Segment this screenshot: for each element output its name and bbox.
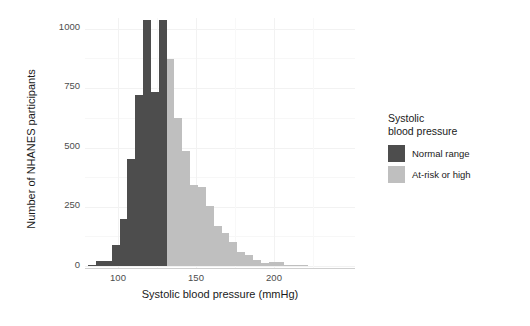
histogram-bar: [277, 262, 285, 266]
y-tick-label-1000: 1000: [36, 22, 80, 32]
histogram-bar: [96, 261, 104, 266]
histogram-bar: [253, 260, 261, 266]
legend-swatch-normal-range: [388, 145, 405, 162]
histogram-bar: [245, 255, 253, 266]
legend: Systolic blood pressure Normal range At-…: [388, 112, 520, 186]
histogram-bar: [135, 95, 143, 266]
histogram-bar: [174, 118, 182, 266]
legend-label-at-risk-or-high: At-risk or high: [412, 169, 471, 180]
legend-label-normal-range: Normal range: [412, 148, 470, 159]
histogram-bar: [167, 59, 175, 266]
plot-area: [85, 18, 355, 268]
histogram-bar: [127, 159, 135, 266]
histogram-bar: [214, 226, 222, 266]
legend-item-normal-range[interactable]: Normal range: [388, 144, 520, 163]
x-axis-line: [85, 268, 355, 269]
histogram-bar: [159, 20, 167, 266]
x-tick-label-200: 200: [254, 272, 294, 283]
histogram-bar: [198, 187, 206, 266]
x-axis-title: Systolic blood pressure (mmHg): [85, 288, 355, 300]
histogram-bar: [190, 185, 198, 266]
histogram-bar: [284, 265, 292, 266]
legend-title-line-2: blood pressure: [388, 125, 520, 138]
y-tick-label-250: 250: [36, 200, 80, 210]
legend-title-line-1: Systolic: [388, 112, 520, 125]
legend-title: Systolic blood pressure: [388, 112, 520, 137]
y-axis-title: Number of NHANES participants: [25, 34, 37, 264]
histogram-bar: [261, 263, 269, 266]
histogram-bar: [120, 219, 128, 266]
histogram-chart: 1000 750 500 250 0 Number of NHANES part…: [0, 0, 530, 326]
histogram-bar: [222, 233, 230, 266]
y-tick-label-500: 500: [36, 141, 80, 151]
histogram-bar: [182, 151, 190, 266]
histogram-bar: [88, 265, 96, 266]
histogram-bar: [269, 262, 277, 266]
histogram-bars: [85, 18, 355, 268]
histogram-bar: [237, 252, 245, 266]
x-tick-label-150: 150: [176, 272, 216, 283]
histogram-bar: [112, 245, 120, 266]
histogram-bar: [151, 92, 159, 266]
histogram-bar: [104, 261, 112, 266]
y-tick-label-750: 750: [36, 81, 80, 91]
histogram-bar: [229, 242, 237, 266]
x-tick-label-100: 100: [98, 272, 138, 283]
histogram-bar: [292, 265, 300, 266]
y-tick-label-0: 0: [36, 260, 80, 270]
legend-swatch-at-risk-or-high: [388, 166, 405, 183]
histogram-bar: [300, 265, 308, 266]
legend-item-at-risk-or-high[interactable]: At-risk or high: [388, 165, 520, 184]
histogram-bar: [143, 20, 151, 266]
histogram-bar: [206, 206, 214, 266]
